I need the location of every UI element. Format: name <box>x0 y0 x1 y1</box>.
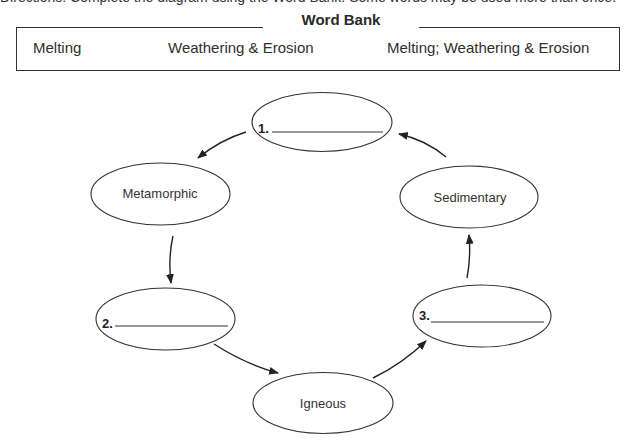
node-blank-1: 1. <box>252 93 392 152</box>
node-label-metamorphic: Metamorphic <box>122 186 198 201</box>
arrow-sedimentary-to-blank1 <box>399 134 446 157</box>
node-blank-2: 2. <box>96 288 235 350</box>
arrow-blank1-to-metamorphic <box>198 132 246 158</box>
blank-number-1: 1. <box>258 121 269 136</box>
node-igneous: Igneous <box>253 373 393 434</box>
node-label-igneous: Igneous <box>300 396 347 411</box>
rock-cycle-diagram: 1. Metamorphic 2. Igneous 3. Sedimentary <box>0 0 632 445</box>
arrow-blank3-to-sedimentary <box>467 235 470 278</box>
node-blank-3: 3. <box>413 285 551 347</box>
node-metamorphic: Metamorphic <box>91 163 230 225</box>
arrow-blank2-to-igneous <box>214 344 278 373</box>
node-sedimentary: Sedimentary <box>400 166 538 228</box>
arrow-igneous-to-blank3 <box>373 341 426 378</box>
arrow-metamorphic-to-blank2 <box>170 236 173 283</box>
node-label-sedimentary: Sedimentary <box>434 190 507 205</box>
blank-number-2: 2. <box>102 316 113 331</box>
blank-number-3: 3. <box>419 308 430 323</box>
